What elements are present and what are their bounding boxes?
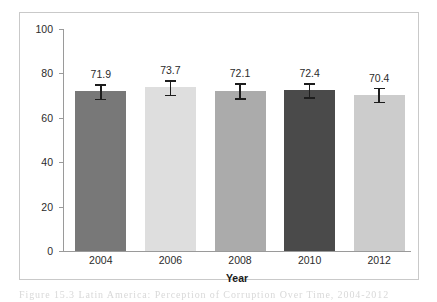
x-axis-tick-label: 2010 xyxy=(298,255,321,266)
error-bar-cap-lower xyxy=(235,98,246,100)
y-axis-tick-label: 80 xyxy=(41,68,53,79)
error-bar xyxy=(170,80,172,95)
y-axis-tick-label: 100 xyxy=(35,24,53,35)
bar-value-label: 72.4 xyxy=(299,68,319,79)
error-bar-cap-upper xyxy=(374,88,385,90)
bar[interactable] xyxy=(354,95,405,251)
y-axis-tick: 80 xyxy=(59,73,63,74)
x-axis-title: Year xyxy=(63,272,411,284)
figure-caption: Figure 15.3 Latin America: Perception of… xyxy=(19,289,419,300)
y-axis-tick: 60 xyxy=(59,118,63,119)
bar-value-label: 72.1 xyxy=(230,68,250,79)
bar[interactable] xyxy=(284,90,335,251)
error-bar xyxy=(239,83,241,98)
bar[interactable] xyxy=(145,87,196,251)
y-axis-tick-label: 0 xyxy=(47,246,53,257)
error-bar-cap-upper xyxy=(95,84,106,86)
bar-value-label: 70.4 xyxy=(369,73,389,84)
bar-group[interactable]: 71.92004 xyxy=(75,29,126,251)
error-bar-cap-upper xyxy=(165,80,176,82)
y-axis-tick: 0 xyxy=(59,251,63,252)
y-axis-tick-label: 40 xyxy=(41,157,53,168)
figure-frame: Perception of corruption 020406080100 71… xyxy=(19,12,419,280)
error-bar-cap-upper xyxy=(235,83,246,85)
error-bar xyxy=(378,88,380,102)
x-axis-tick-label: 2004 xyxy=(89,255,112,266)
bar-group[interactable]: 72.42010 xyxy=(284,29,335,251)
error-bar-cap-lower xyxy=(95,99,106,101)
y-axis-tick-label: 60 xyxy=(41,113,53,124)
bar[interactable] xyxy=(75,91,126,251)
bar-group[interactable]: 70.42012 xyxy=(354,29,405,251)
error-bar-cap-upper xyxy=(304,83,315,85)
plot-area: Perception of corruption 020406080100 71… xyxy=(63,29,411,251)
error-bar-cap-lower xyxy=(165,95,176,97)
bar-value-label: 71.9 xyxy=(91,69,111,80)
bar-value-label: 73.7 xyxy=(160,65,180,76)
bar-group[interactable]: 73.72006 xyxy=(145,29,196,251)
error-bar xyxy=(100,84,102,99)
x-axis-tick-label: 2008 xyxy=(228,255,251,266)
x-axis-line xyxy=(63,251,411,252)
error-bar xyxy=(309,83,311,97)
y-axis-tick-label: 20 xyxy=(41,201,53,212)
bar-group[interactable]: 72.12008 xyxy=(215,29,266,251)
y-axis-line xyxy=(63,29,64,251)
error-bar-cap-lower xyxy=(304,97,315,99)
y-axis-tick: 100 xyxy=(59,29,63,30)
x-axis-tick-label: 2006 xyxy=(159,255,182,266)
error-bar-cap-lower xyxy=(374,102,385,104)
bar[interactable] xyxy=(215,91,266,251)
x-axis-tick-label: 2012 xyxy=(368,255,391,266)
y-axis-tick: 20 xyxy=(59,207,63,208)
y-axis-tick: 40 xyxy=(59,162,63,163)
